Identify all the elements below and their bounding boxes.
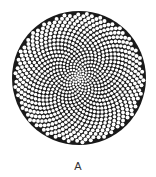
figure-label: A — [0, 160, 156, 172]
phyllotaxis-disk-diagram — [0, 0, 156, 177]
